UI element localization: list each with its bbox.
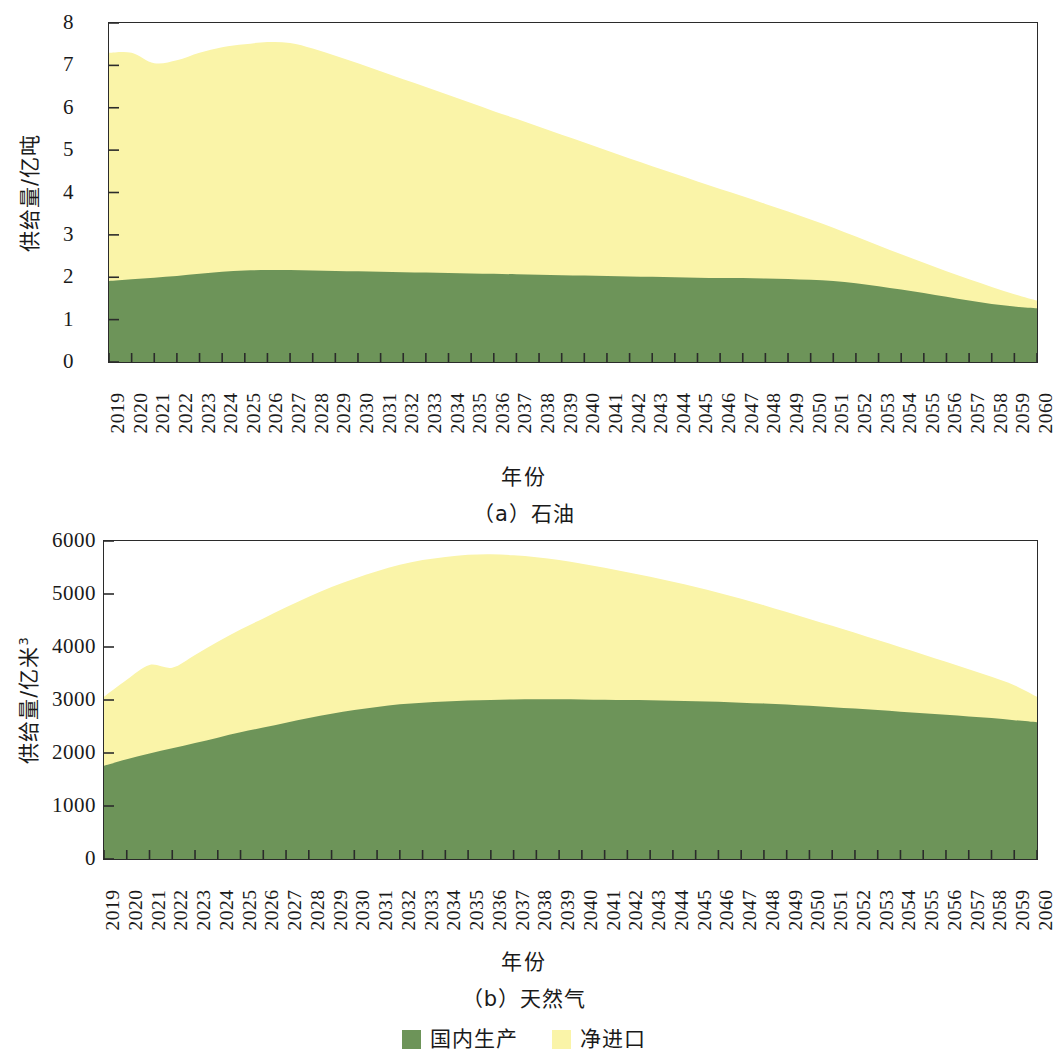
x-ticklabel: 2021 xyxy=(153,393,173,434)
x-ticklabel: 2033 xyxy=(425,393,445,434)
x-ticklabel: 2045 xyxy=(695,890,715,931)
y-ticklabel: 5 xyxy=(63,139,74,160)
x-ticklabel: 2025 xyxy=(240,890,260,931)
x-axis-ticklabels-a: 2019202020212022202320242025202620272028… xyxy=(108,372,1038,467)
x-ticklabel: 2050 xyxy=(808,890,828,931)
x-ticklabel: 2019 xyxy=(108,393,128,434)
x-ticklabel: 2040 xyxy=(583,393,603,434)
x-ticklabel: 2040 xyxy=(581,890,601,931)
x-ticklabel: 2059 xyxy=(1013,393,1033,434)
y-ticklabel: 2 xyxy=(63,266,74,287)
x-ticklabel: 2023 xyxy=(194,890,214,931)
y-ticklabel: 2000 xyxy=(52,742,96,763)
x-ticklabel: 2024 xyxy=(221,393,241,434)
y-ticklabel: 3000 xyxy=(52,689,96,710)
x-ticklabel: 2052 xyxy=(854,890,874,931)
x-ticklabel: 2020 xyxy=(131,393,151,434)
x-ticklabel: 2038 xyxy=(538,393,558,434)
legend-swatch-domestic xyxy=(402,1030,421,1049)
x-ticklabel: 2032 xyxy=(399,890,419,931)
x-ticklabel: 2039 xyxy=(558,890,578,931)
figure-legend: 国内生产净进口 xyxy=(0,1025,1048,1053)
plot-area-natural-gas xyxy=(103,540,1038,860)
legend-label-net_import: 净进口 xyxy=(580,1029,646,1050)
y-ticklabel: 4 xyxy=(63,181,74,202)
x-ticklabel: 2022 xyxy=(176,393,196,434)
x-ticklabel: 2050 xyxy=(810,393,830,434)
x-ticklabel: 2049 xyxy=(786,890,806,931)
x-ticklabel: 2044 xyxy=(674,393,694,434)
x-ticklabel: 2020 xyxy=(126,890,146,931)
x-ticklabel: 2053 xyxy=(877,890,897,931)
x-ticklabel: 2035 xyxy=(470,393,490,434)
x-ticklabel: 2057 xyxy=(968,393,988,434)
y-ticklabel: 1000 xyxy=(52,795,96,816)
y-ticklabel: 7 xyxy=(63,54,74,75)
x-ticklabel: 2023 xyxy=(199,393,219,434)
x-ticklabel: 2052 xyxy=(855,393,875,434)
y-ticklabel: 1 xyxy=(63,308,74,329)
x-ticklabel: 2033 xyxy=(422,890,442,931)
x-ticklabel: 2048 xyxy=(764,393,784,434)
x-ticklabel: 2056 xyxy=(945,393,965,434)
x-ticklabel: 2028 xyxy=(312,393,332,434)
x-ticklabel: 2055 xyxy=(922,890,942,931)
x-ticklabel: 2019 xyxy=(103,890,123,931)
y-ticklabel: 6000 xyxy=(52,530,96,551)
x-ticklabel: 2046 xyxy=(719,393,739,434)
x-ticklabel: 2049 xyxy=(787,393,807,434)
stacked-area-svg xyxy=(109,23,1037,362)
x-ticklabel: 2037 xyxy=(513,890,533,931)
x-ticklabel: 2039 xyxy=(561,393,581,434)
x-ticklabel: 2054 xyxy=(900,393,920,434)
y-ticklabel: 3 xyxy=(63,223,74,244)
x-ticklabel: 2045 xyxy=(696,393,716,434)
plot-area-petroleum xyxy=(108,22,1038,363)
x-axis-title-b-text: 年份 xyxy=(501,950,547,974)
x-ticklabel: 2022 xyxy=(171,890,191,931)
y-axis-ticklabels-a: 012345678 xyxy=(0,22,74,363)
x-ticklabel: 2021 xyxy=(149,890,169,931)
x-ticklabel: 2058 xyxy=(990,890,1010,931)
x-ticklabel: 2028 xyxy=(308,890,328,931)
subcaption-b-text: （b）天然气 xyxy=(462,987,586,1011)
legend-item-net_import: 净进口 xyxy=(552,1029,646,1050)
x-ticklabel: 2042 xyxy=(626,890,646,931)
x-ticklabel: 2027 xyxy=(285,890,305,931)
y-ticklabel: 8 xyxy=(63,12,74,33)
x-ticklabel: 2031 xyxy=(376,890,396,931)
legend-label-domestic: 国内生产 xyxy=(430,1029,518,1050)
x-ticklabel: 2058 xyxy=(991,393,1011,434)
x-ticklabel: 2053 xyxy=(878,393,898,434)
x-ticklabel: 2054 xyxy=(899,890,919,931)
legend-item-domestic: 国内生产 xyxy=(402,1029,518,1050)
x-ticklabel: 2046 xyxy=(717,890,737,931)
x-ticklabel: 2029 xyxy=(334,393,354,434)
y-axis-ticklabels-b: 0100020003000400050006000 xyxy=(0,540,96,860)
x-ticklabel: 2060 xyxy=(1036,890,1056,931)
y-ticklabel: 0 xyxy=(63,351,74,372)
y-ticklabel: 0 xyxy=(85,848,96,869)
x-ticklabel: 2044 xyxy=(672,890,692,931)
x-ticklabel: 2048 xyxy=(763,890,783,931)
x-ticklabel: 2055 xyxy=(923,393,943,434)
x-ticklabel: 2031 xyxy=(380,393,400,434)
x-ticklabel: 2038 xyxy=(535,890,555,931)
x-ticklabel: 2029 xyxy=(331,890,351,931)
legend-swatch-net_import xyxy=(552,1030,571,1049)
x-ticklabel: 2057 xyxy=(968,890,988,931)
x-ticklabel: 2034 xyxy=(444,890,464,931)
x-ticklabel: 2059 xyxy=(1013,890,1033,931)
y-ticklabel: 4000 xyxy=(52,636,96,657)
x-ticklabel: 2027 xyxy=(289,393,309,434)
x-ticklabel: 2047 xyxy=(742,393,762,434)
x-ticklabel: 2051 xyxy=(831,890,851,931)
x-ticklabel: 2037 xyxy=(515,393,535,434)
x-ticklabel: 2024 xyxy=(217,890,237,931)
x-ticklabel: 2060 xyxy=(1036,393,1056,434)
x-ticklabel: 2042 xyxy=(629,393,649,434)
x-ticklabel: 2034 xyxy=(448,393,468,434)
x-ticklabel: 2026 xyxy=(262,890,282,931)
x-ticklabel: 2036 xyxy=(490,890,510,931)
